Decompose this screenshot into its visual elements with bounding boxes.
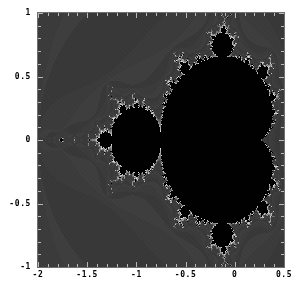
- y-axis-minor-tick: [38, 89, 41, 90]
- x-axis-top-minor-tick: [205, 13, 206, 16]
- y-axis-tick-label: 0.5: [15, 73, 31, 81]
- x-axis-top-minor-tick: [48, 13, 49, 16]
- x-axis-minor-tick: [58, 264, 59, 267]
- y-axis-right-major-tick: [279, 204, 284, 205]
- x-axis-minor-tick: [166, 264, 167, 267]
- x-axis-top-minor-tick: [127, 13, 128, 16]
- x-axis-minor-tick: [146, 264, 147, 267]
- x-axis-minor-tick: [127, 264, 128, 267]
- y-axis-minor-tick: [38, 38, 41, 39]
- x-axis-top-major-tick: [284, 13, 285, 18]
- y-axis-tick-label: 0: [26, 136, 31, 144]
- x-axis-major-tick: [235, 262, 236, 267]
- x-axis-minor-tick: [77, 264, 78, 267]
- plot-frame: [37, 12, 285, 268]
- x-axis-top-minor-tick: [264, 13, 265, 16]
- y-axis-major-tick: [38, 140, 43, 141]
- x-axis-minor-tick: [205, 264, 206, 267]
- x-axis-top-minor-tick: [195, 13, 196, 16]
- y-axis-minor-tick: [38, 102, 41, 103]
- x-axis-top-minor-tick: [245, 13, 246, 16]
- y-axis-major-tick: [38, 77, 43, 78]
- y-axis-right-minor-tick: [281, 127, 284, 128]
- x-axis-major-tick: [87, 262, 88, 267]
- y-axis-minor-tick: [38, 51, 41, 52]
- y-axis-right-minor-tick: [281, 38, 284, 39]
- x-axis-top-major-tick: [87, 13, 88, 18]
- x-axis-minor-tick: [215, 264, 216, 267]
- mandelbrot-plot-area: [38, 13, 284, 267]
- y-axis-minor-tick: [38, 242, 41, 243]
- y-axis-minor-tick: [38, 191, 41, 192]
- y-axis-minor-tick: [38, 127, 41, 128]
- x-axis-top-minor-tick: [254, 13, 255, 16]
- x-axis-minor-tick: [195, 264, 196, 267]
- x-axis-minor-tick: [117, 264, 118, 267]
- y-axis-major-tick: [38, 267, 43, 268]
- y-axis-right-minor-tick: [281, 191, 284, 192]
- y-axis-minor-tick: [38, 165, 41, 166]
- x-axis-major-tick: [136, 262, 137, 267]
- x-axis-top-major-tick: [235, 13, 236, 18]
- y-axis-right-minor-tick: [281, 242, 284, 243]
- x-axis-minor-tick: [176, 264, 177, 267]
- y-axis-minor-tick: [38, 26, 41, 27]
- y-axis-right-major-tick: [279, 77, 284, 78]
- x-axis-tick-label: 0: [232, 271, 237, 279]
- y-axis-right-minor-tick: [281, 165, 284, 166]
- mandelbrot-figure: -2-1.5-1-0.500.5-1-0.500.51: [0, 0, 301, 295]
- x-axis-minor-tick: [48, 264, 49, 267]
- x-axis-minor-tick: [245, 264, 246, 267]
- y-axis-right-minor-tick: [281, 153, 284, 154]
- x-axis-top-minor-tick: [225, 13, 226, 16]
- y-axis-right-minor-tick: [281, 115, 284, 116]
- y-axis-right-minor-tick: [281, 51, 284, 52]
- y-axis-right-minor-tick: [281, 89, 284, 90]
- x-axis-top-minor-tick: [146, 13, 147, 16]
- x-axis-tick-label: -0.5: [175, 271, 197, 279]
- y-axis-right-major-tick: [279, 267, 284, 268]
- x-axis-tick-label: -2: [33, 271, 44, 279]
- x-axis-tick-label: -1: [131, 271, 142, 279]
- y-axis-right-major-tick: [279, 13, 284, 14]
- y-axis-minor-tick: [38, 178, 41, 179]
- x-axis-tick-label: -1.5: [76, 271, 98, 279]
- x-axis-tick-label: 0.5: [276, 271, 292, 279]
- x-axis-minor-tick: [97, 264, 98, 267]
- x-axis-minor-tick: [274, 264, 275, 267]
- x-axis-top-minor-tick: [176, 13, 177, 16]
- y-axis-right-minor-tick: [281, 64, 284, 65]
- y-axis-right-minor-tick: [281, 254, 284, 255]
- y-axis-tick-label: -0.5: [9, 200, 31, 208]
- x-axis-top-minor-tick: [68, 13, 69, 16]
- y-axis-right-minor-tick: [281, 229, 284, 230]
- x-axis-top-minor-tick: [156, 13, 157, 16]
- x-axis-minor-tick: [254, 264, 255, 267]
- y-axis-major-tick: [38, 13, 43, 14]
- y-axis-right-minor-tick: [281, 102, 284, 103]
- y-axis-minor-tick: [38, 64, 41, 65]
- y-axis-right-minor-tick: [281, 178, 284, 179]
- y-axis-tick-label: -1: [20, 263, 31, 271]
- x-axis-minor-tick: [225, 264, 226, 267]
- y-axis-major-tick: [38, 204, 43, 205]
- y-axis-minor-tick: [38, 254, 41, 255]
- x-axis-major-tick: [284, 262, 285, 267]
- y-axis-minor-tick: [38, 229, 41, 230]
- y-axis-right-minor-tick: [281, 216, 284, 217]
- y-axis-minor-tick: [38, 153, 41, 154]
- x-axis-top-minor-tick: [97, 13, 98, 16]
- x-axis-minor-tick: [156, 264, 157, 267]
- y-axis-right-minor-tick: [281, 26, 284, 27]
- x-axis-top-minor-tick: [58, 13, 59, 16]
- y-axis-minor-tick: [38, 115, 41, 116]
- y-axis-minor-tick: [38, 216, 41, 217]
- x-axis-top-minor-tick: [117, 13, 118, 16]
- x-axis-top-major-tick: [136, 13, 137, 18]
- y-axis-tick-label: 1: [26, 9, 31, 17]
- x-axis-top-minor-tick: [166, 13, 167, 16]
- x-axis-minor-tick: [264, 264, 265, 267]
- x-axis-minor-tick: [107, 264, 108, 267]
- x-axis-top-minor-tick: [274, 13, 275, 16]
- x-axis-top-minor-tick: [77, 13, 78, 16]
